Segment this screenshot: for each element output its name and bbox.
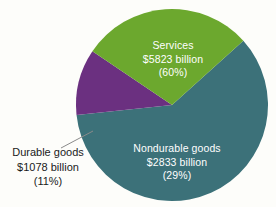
slice-label-durable-goods: Durable goods $1078 billion (11%) [0, 145, 96, 189]
slice-label-durable-goods-percent: (11%) [0, 174, 96, 189]
pie-chart-figure: Services $5823 billion (60%) Nondurable … [0, 0, 276, 207]
slice-label-durable-goods-value: $1078 billion [0, 160, 96, 175]
slice-label-durable-goods-name: Durable goods [0, 145, 96, 160]
